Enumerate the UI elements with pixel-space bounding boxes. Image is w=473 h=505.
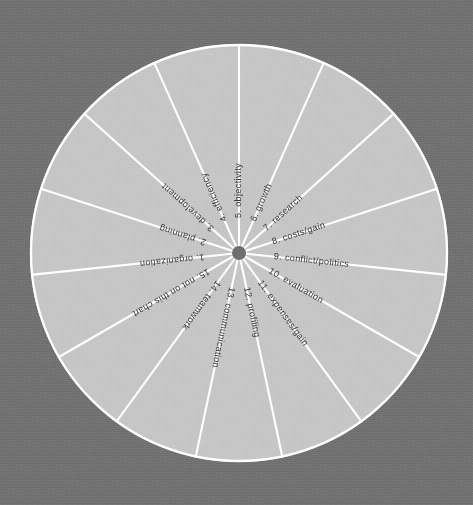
wheel-center-hub xyxy=(232,246,246,260)
wheel-chart-canvas: 1. organization2. planning3. development… xyxy=(0,0,473,505)
segmented-wheel-chart: 1. organization2. planning3. development… xyxy=(0,0,473,505)
wheel-sector-label: 5. objectivity xyxy=(233,163,243,218)
